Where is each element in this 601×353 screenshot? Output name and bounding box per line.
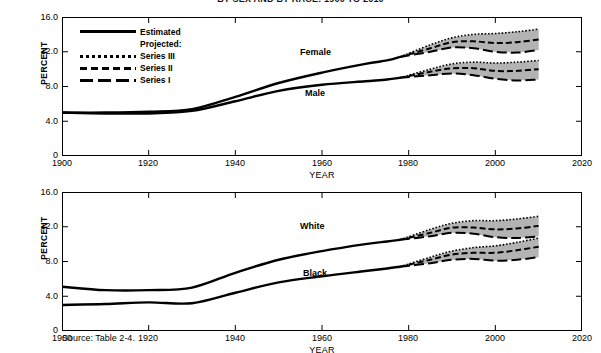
- source-note: Source: Table 2-4.: [62, 333, 135, 343]
- x-axis-label-bottom: YEAR: [62, 345, 582, 353]
- y-tick-bottom-2: 8.0: [24, 257, 58, 265]
- y-tick-top-3: 12.0: [24, 47, 58, 55]
- x-tick-top-1: 1920: [128, 159, 168, 168]
- x-tick-bottom-2: 1940: [215, 334, 255, 343]
- legend-label-series3: Series III: [140, 50, 175, 62]
- x-tick-top-5: 2000: [475, 159, 515, 168]
- y-tick-bottom-4: 16.0: [24, 188, 58, 196]
- panel-sex: PERCENT 16.0 12.0 8.0 4.0 0 Estimated Pr…: [0, 8, 601, 168]
- y-tick-top-4: 16.0: [24, 13, 58, 21]
- y-tick-top-1: 4.0: [24, 117, 58, 125]
- legend-swatch-longdash-icon: [80, 79, 136, 82]
- chart-page: BY SEX AND BY RACE: 1900 TO 2010 PERCENT…: [0, 0, 601, 353]
- x-tick-bottom-3: 1960: [302, 334, 342, 343]
- legend-item-series3: Series III: [72, 50, 242, 62]
- legend-label-projected: Projected:: [140, 38, 182, 50]
- x-tick-top-6: 2020: [562, 159, 601, 168]
- legend-item-projected: Projected:: [72, 38, 242, 50]
- x-tick-bottom-6: 2020: [562, 334, 601, 343]
- x-tick-bottom-4: 1980: [388, 334, 428, 343]
- legend-label-series1: Series I: [140, 74, 170, 86]
- panel-race: PERCENT 16.0 12.0 8.0 4.0 0 White Black …: [0, 183, 601, 343]
- legend-item-series2: Series II: [72, 62, 242, 74]
- legend: Estimated Projected: Series III Series I…: [72, 26, 242, 86]
- legend-swatch-solid-icon: [80, 30, 136, 33]
- x-axis-label-top: YEAR: [62, 170, 582, 180]
- y-tick-bottom-1: 4.0: [24, 292, 58, 300]
- legend-swatch-dotted-icon: [80, 55, 136, 58]
- legend-label-series2: Series II: [140, 62, 173, 74]
- y-axis-top: PERCENT 16.0 12.0 8.0 4.0 0: [20, 8, 58, 168]
- y-tick-top-2: 8.0: [24, 82, 58, 90]
- legend-swatch-dashed-icon: [80, 67, 136, 70]
- curve-label-white: White: [300, 221, 325, 231]
- x-tick-top-3: 1960: [302, 159, 342, 168]
- curve-label-female: Female: [300, 47, 331, 57]
- legend-item-estimated: Estimated: [72, 26, 242, 38]
- y-axis-bottom: PERCENT 16.0 12.0 8.0 4.0 0: [20, 183, 58, 343]
- x-tick-top-0: 1900: [42, 159, 82, 168]
- curve-label-black: Black: [303, 268, 327, 278]
- curve-label-male: Male: [305, 88, 325, 98]
- x-tick-top-4: 1980: [388, 159, 428, 168]
- legend-item-series1: Series I: [72, 74, 242, 86]
- x-tick-bottom-5: 2000: [475, 334, 515, 343]
- legend-label-estimated: Estimated: [140, 26, 181, 38]
- x-tick-top-2: 1940: [215, 159, 255, 168]
- plot-canvas-bottom: [62, 192, 582, 331]
- chart-title: BY SEX AND BY RACE: 1900 TO 2010: [0, 0, 601, 3]
- y-tick-bottom-3: 12.0: [24, 222, 58, 230]
